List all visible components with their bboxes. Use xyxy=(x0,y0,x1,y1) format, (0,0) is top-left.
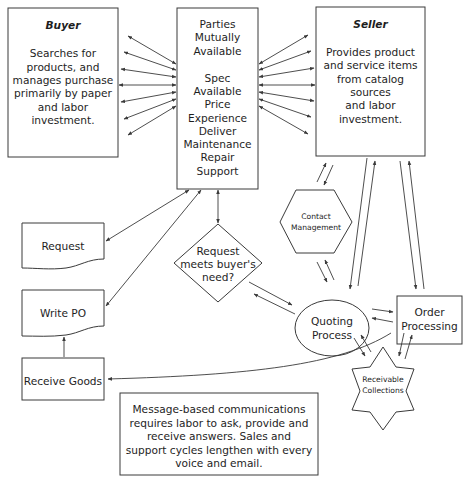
buyer-line-6: investment. xyxy=(31,114,94,126)
buyer-line-4: primarily by paper xyxy=(14,87,113,99)
quoting-to-order-arrow xyxy=(372,309,393,312)
order-processing-node: Order Processing xyxy=(397,296,462,344)
process-diagram: Buyer Searches for products, and manages… xyxy=(0,0,469,482)
note-node: Message-based communications requires la… xyxy=(120,393,318,475)
receive-goods-node: Receive Goods xyxy=(22,358,104,400)
buyer-line-1: Searches for xyxy=(30,47,97,59)
center-line-7: Price xyxy=(205,98,231,110)
request-label: Request xyxy=(41,240,84,252)
write-po-node: Write PO xyxy=(22,290,104,336)
quoting-process-node: Quoting Process xyxy=(295,300,369,356)
decision-line-3: need? xyxy=(202,271,234,283)
contact-management-node: Contact Management xyxy=(280,190,352,253)
seller-node: Seller Provides product and service item… xyxy=(316,7,425,156)
note-line-2: requires labor to ask, provide and xyxy=(130,417,309,429)
seller-line-3: from catalog xyxy=(337,73,404,85)
quoting-line-2: Process xyxy=(312,329,352,341)
center-line-11: Repair xyxy=(201,151,236,163)
collections-line-1: Receivable xyxy=(362,375,404,384)
buyer-line-2: products, and xyxy=(27,61,100,73)
order-to-seller-arrow xyxy=(409,161,424,289)
contact-to-seller-arrow xyxy=(317,163,326,182)
quoting-to-contact-arrow xyxy=(325,260,334,280)
buyer-line-3: manages purchase xyxy=(13,74,114,86)
center-line-2: Mutually xyxy=(195,31,240,43)
seller-line-4: sources xyxy=(350,86,391,98)
center-line-12: Support xyxy=(197,165,239,177)
center-line-3: Available xyxy=(194,45,242,57)
receive-goods-label: Receive Goods xyxy=(24,375,102,387)
note-line-3: receive answers. Sales and xyxy=(147,430,291,442)
contact-line-2: Management xyxy=(291,223,341,232)
buyer-line-5: and labor xyxy=(38,101,89,113)
decision-line-2: meets buyer's xyxy=(180,258,255,270)
collections-line-2: Collections xyxy=(362,386,404,395)
center-line-8: Experience xyxy=(188,112,247,124)
seller-title: Seller xyxy=(353,18,388,30)
seller-line-5: and labor xyxy=(345,99,396,111)
contact-to-quoting-arrow xyxy=(317,262,327,282)
quoting-to-decision-arrow xyxy=(254,294,295,314)
quoting-line-1: Quoting xyxy=(311,315,353,327)
seller-to-order-arrow xyxy=(400,161,416,289)
center-line-6: Available xyxy=(194,85,242,97)
decision-line-1: Request xyxy=(196,245,239,257)
center-seller-arrows xyxy=(259,35,315,134)
note-line-5: voice and email. xyxy=(175,457,262,469)
request-node: Request xyxy=(22,223,104,269)
note-line-1: Message-based communications xyxy=(132,403,305,415)
center-writepo-arrow xyxy=(106,190,201,306)
seller-line-6: investment. xyxy=(339,113,402,125)
order-to-quoting-arrow xyxy=(372,318,393,322)
center-request-arrow xyxy=(106,190,189,241)
contact-line-1: Contact xyxy=(301,212,331,221)
write-po-label: Write PO xyxy=(40,307,86,319)
buyer-center-arrows xyxy=(119,36,176,135)
seller-line-1: Provides product xyxy=(326,46,415,58)
buyer-node: Buyer Searches for products, and manages… xyxy=(8,8,118,157)
quoting-to-seller-arrow xyxy=(358,161,375,286)
order-line-2: Processing xyxy=(401,320,458,332)
seller-to-quoting-arrow xyxy=(350,158,367,289)
center-line-10: Maintenance xyxy=(183,138,251,150)
receivable-collections-node: Receivable Collections xyxy=(352,347,414,430)
center-line-1: Parties xyxy=(200,18,236,30)
center-node: Parties Mutually Available Spec Availabl… xyxy=(177,8,258,189)
decision-node: Request meets buyer's need? xyxy=(174,224,262,302)
seller-to-contact-arrow xyxy=(324,165,333,185)
buyer-title: Buyer xyxy=(46,19,82,31)
seller-line-2: and service items xyxy=(323,59,417,71)
note-line-4: support cycles lengthen with every xyxy=(126,444,312,456)
center-line-5: Spec xyxy=(205,72,231,84)
order-line-1: Order xyxy=(414,306,445,318)
center-line-9: Deliver xyxy=(199,125,237,137)
